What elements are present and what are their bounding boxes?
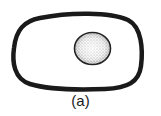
figure-caption: (a) <box>0 93 161 109</box>
cell-diagram: (a) <box>0 0 161 116</box>
nucleus-shading <box>76 34 110 64</box>
